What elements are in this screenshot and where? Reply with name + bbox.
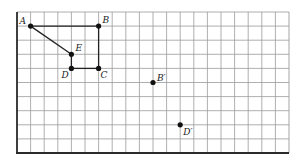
point-label-e: E: [74, 43, 82, 53]
point-dp: [178, 122, 183, 127]
point-a: [28, 24, 33, 29]
point-d: [69, 66, 74, 71]
point-b: [96, 24, 101, 29]
point-label-a: A: [19, 16, 27, 26]
point-bp: [150, 80, 155, 85]
point-label-dp: D′: [182, 127, 192, 137]
polygon-abcde: [31, 26, 99, 68]
point-label-d: D: [60, 70, 68, 80]
point-label-bp: B′: [156, 73, 166, 83]
coordinate-grid-figure: ABEDCB′D′: [0, 0, 303, 161]
point-label-b: B: [102, 15, 110, 25]
point-e: [69, 52, 74, 57]
point-label-c: C: [101, 70, 108, 80]
